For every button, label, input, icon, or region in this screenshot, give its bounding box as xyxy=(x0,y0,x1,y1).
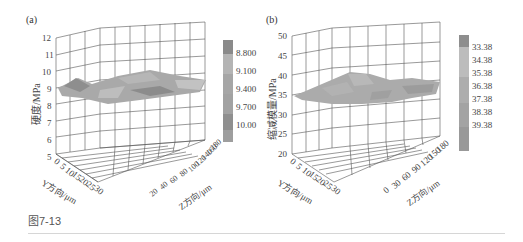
surface-plot-b xyxy=(262,0,523,210)
z-tick: 10 xyxy=(42,68,51,77)
z-tick: 12 xyxy=(42,34,51,43)
colorbar-tick: 35.38 xyxy=(472,69,492,78)
colorbar-tick: 38.38 xyxy=(472,108,492,117)
z-axis-label: 硬度/MPa xyxy=(28,83,43,125)
z-tick: 25 xyxy=(278,130,287,139)
z-tick: 45 xyxy=(278,52,287,61)
colorbar-tick: 34.38 xyxy=(472,56,492,65)
colorbar xyxy=(459,35,469,151)
z-tick: 20 xyxy=(278,150,287,159)
colorbar-tick: 9.100 xyxy=(236,67,256,76)
z-tick: 50 xyxy=(278,32,287,41)
colorbar-tick: 33.38 xyxy=(472,43,492,52)
colorbar xyxy=(223,40,233,142)
z-tick: 6 xyxy=(47,136,52,145)
colorbar-tick: 36.38 xyxy=(472,82,492,91)
z-tick: 5 xyxy=(47,153,52,162)
z-tick: 30 xyxy=(278,111,287,120)
colorbar-tick: 39.38 xyxy=(472,121,492,130)
z-axis-label: 缩减模量/MPa xyxy=(264,78,279,140)
colorbar-tick: 9.400 xyxy=(236,85,256,94)
z-tick: 9 xyxy=(47,85,52,94)
z-tick: 11 xyxy=(45,51,54,60)
z-tick: 35 xyxy=(278,91,287,100)
colorbar-tick: 37.38 xyxy=(472,95,492,104)
caption-divider xyxy=(28,233,505,234)
panel-b-modulus-surface: (b) xyxy=(262,0,523,210)
z-tick: 8 xyxy=(47,102,52,111)
colorbar-tick: 10.00 xyxy=(236,121,256,130)
z-tick: 7 xyxy=(47,119,52,128)
colorbar-tick: 8.800 xyxy=(236,49,256,58)
panel-a-hardness-surface: (a) xyxy=(0,0,262,210)
colorbar-tick: 9.700 xyxy=(236,103,256,112)
figure-caption: 图7-13 xyxy=(28,212,61,228)
z-tick: 40 xyxy=(278,72,287,81)
